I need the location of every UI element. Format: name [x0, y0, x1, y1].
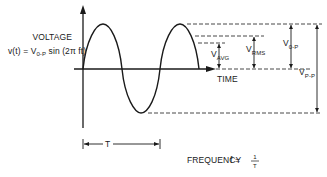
vrms-label: VRMS	[246, 44, 265, 56]
voltage-label: VOLTAGE	[32, 32, 72, 42]
period-arrow	[83, 139, 160, 149]
y-axis-arrow-icon	[80, 5, 86, 14]
vavg-label: VAVG	[211, 49, 230, 61]
x-axis-arrow-icon	[206, 66, 216, 72]
sine-wave-diagram: VOLTAGE v(t) = V0-P sin (2π ft) TIME VAV…	[0, 0, 327, 177]
equation: v(t) = V0-P sin (2π ft)	[8, 46, 86, 57]
frequency-denominator: T	[253, 163, 257, 169]
time-label: TIME	[217, 74, 238, 84]
frequency-numerator: 1	[253, 154, 257, 160]
frequency-lhs: f =	[230, 155, 240, 165]
x-axis	[74, 66, 216, 72]
period-label: T	[105, 139, 110, 149]
